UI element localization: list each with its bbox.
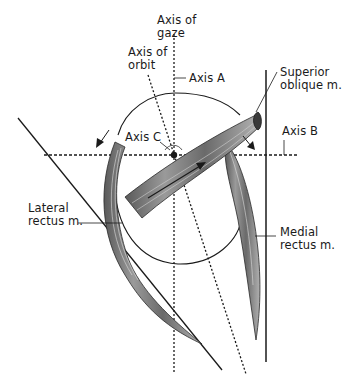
eye-axes-diagram: Axis of gaze Axis of orbit Axis A Superi…	[0, 0, 350, 391]
axis-of-gaze-label: Axis of gaze	[157, 14, 196, 40]
axis-b-label: Axis B	[282, 125, 318, 138]
axis-of-orbit-label: Axis of orbit	[128, 46, 167, 72]
diagram-canvas	[0, 0, 350, 391]
axis-c-label: Axis C	[125, 131, 161, 144]
axis-c-leader	[160, 142, 170, 150]
medial-rectus-label: Medial rectus m.	[280, 226, 335, 252]
superior-oblique-label: Superior oblique m.	[280, 66, 342, 92]
axis-of-orbit-line	[148, 75, 246, 374]
lateral-rectus-label: Lateral rectus m.	[28, 202, 83, 228]
axis-a-label: Axis A	[189, 72, 225, 85]
axis-c-point	[171, 152, 177, 158]
